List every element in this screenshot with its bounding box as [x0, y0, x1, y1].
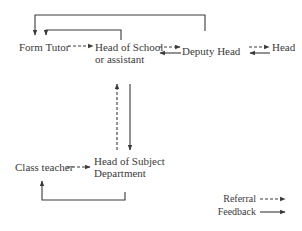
node-head-of-subject-line1: Head of Subject [94, 155, 165, 167]
feedback-arrow-hosd-to-classteacher [42, 181, 125, 200]
node-head-of-subject-department: Head of Subject Department [94, 155, 165, 179]
feedback-arrow-deputy-to-formtutor [35, 15, 205, 35]
diagram-connectors [0, 0, 302, 231]
legend-feedback-label: Feedback [218, 206, 256, 217]
node-head-of-school-line2: or assistant [95, 53, 163, 65]
node-head-of-subject-line2: Department [94, 167, 165, 179]
node-class-teacher: Class teacher [15, 161, 73, 173]
node-deputy-head: Deputy Head [182, 45, 240, 57]
node-form-tutor: Form Tutor [19, 41, 69, 53]
node-head-of-school: Head of School or assistant [95, 41, 163, 65]
node-head-of-school-line1: Head of School [95, 41, 163, 53]
node-head: Head [272, 41, 295, 53]
legend-referral-label: Referral [223, 193, 256, 204]
feedback-arrow-hos-to-formtutor [46, 30, 121, 40]
